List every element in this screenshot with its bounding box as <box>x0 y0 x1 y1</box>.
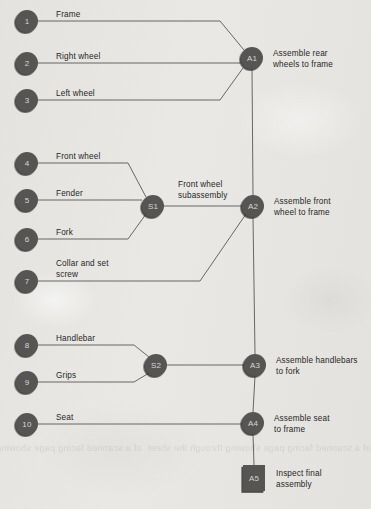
connection-lines <box>38 21 255 465</box>
operation-label-A1: Assemble rear wheels to frame <box>273 49 333 70</box>
operation-node-A2[interactable]: A2 <box>242 195 264 217</box>
part-node-5[interactable]: 5 <box>16 189 38 211</box>
operation-label-A2: Assemble front wheel to frame <box>274 197 331 218</box>
assembly-chart-page: of a scanned facing page showing through… <box>0 0 371 509</box>
connection-line-8-to-S2 <box>38 345 149 357</box>
part-label-3: Left wheel <box>56 89 95 100</box>
connection-line-A3-to-A4 <box>253 376 255 412</box>
subassembly-node-S1[interactable]: S1 <box>142 195 164 217</box>
part-label-1: Frame <box>56 10 80 21</box>
part-node-id: 2 <box>25 59 30 68</box>
operation-node-id: A4 <box>248 419 259 428</box>
operation-node-A3[interactable]: A3 <box>244 354 266 376</box>
part-node-id: 9 <box>25 378 30 387</box>
part-label-9: Grips <box>56 371 76 382</box>
connection-line-9-to-S2 <box>38 373 149 382</box>
operation-node-id: A1 <box>247 54 258 63</box>
operation-node-A1[interactable]: A1 <box>241 47 263 69</box>
part-label-2: Right wheel <box>56 52 100 63</box>
operation-label-A4: Assemble seat to frame <box>274 414 330 435</box>
inspection-node-id: A5 <box>249 474 260 483</box>
operation-label-A3: Assemble handlebars to fork <box>276 356 358 377</box>
part-label-5: Fender <box>56 189 83 200</box>
subassembly-label-S1: Front wheel subassembly <box>178 180 227 201</box>
connection-line-4-to-S1 <box>38 163 146 197</box>
connection-line-1-to-A1 <box>38 21 244 50</box>
subassembly-node-id: S2 <box>151 361 162 370</box>
part-node-9[interactable]: 9 <box>16 371 38 393</box>
inspection-node-A5[interactable]: A5 <box>243 465 265 491</box>
part-node-4[interactable]: 4 <box>16 152 38 174</box>
operation-label-A5: Inspect final assembly <box>276 469 322 490</box>
part-node-3[interactable]: 3 <box>16 89 38 111</box>
operation-node-id: A2 <box>248 202 259 211</box>
part-node-6[interactable]: 6 <box>16 228 38 250</box>
part-node-id: 3 <box>25 96 30 105</box>
part-node-id: 5 <box>25 196 30 205</box>
subassembly-node-id: S1 <box>148 202 159 211</box>
connection-line-A1-to-A2 <box>252 69 253 195</box>
part-node-2[interactable]: 2 <box>16 52 38 74</box>
nodes-group: 12345678910S1S2A1A2A3A4A5 <box>16 10 266 491</box>
connection-line-A2-to-A3 <box>253 217 255 354</box>
connection-line-A4-to-A5 <box>253 434 254 465</box>
operation-node-A4[interactable]: A4 <box>242 412 264 434</box>
connection-line-6-to-S1 <box>38 214 146 239</box>
part-node-id: 8 <box>25 341 30 350</box>
subassembly-node-S2[interactable]: S2 <box>145 354 167 376</box>
part-node-7[interactable]: 7 <box>16 270 38 292</box>
part-node-8[interactable]: 8 <box>16 334 38 356</box>
part-label-7: Collar and set screw <box>56 259 109 280</box>
part-node-id: 10 <box>22 420 32 429</box>
part-node-10[interactable]: 10 <box>16 413 38 435</box>
part-label-4: Front wheel <box>56 152 100 163</box>
part-node-id: 7 <box>25 277 30 286</box>
part-label-8: Handlebar <box>56 334 95 345</box>
part-node-id: 4 <box>25 159 30 168</box>
part-node-id: 6 <box>25 235 30 244</box>
part-node-id: 1 <box>25 17 30 26</box>
part-label-10: Seat <box>56 413 73 424</box>
operation-node-id: A3 <box>250 361 261 370</box>
part-node-1[interactable]: 1 <box>16 10 38 32</box>
part-label-6: Fork <box>56 228 73 239</box>
